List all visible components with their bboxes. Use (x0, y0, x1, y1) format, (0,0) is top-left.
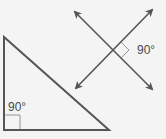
diagram-svg: 90° 90° (0, 0, 166, 139)
angle-label-triangle: 90° (8, 100, 26, 114)
right-triangle: 90° (4, 37, 109, 130)
right-angle-square (5, 115, 20, 129)
line-b-arrow (76, 50, 113, 88)
line-a-arrow (75, 12, 113, 50)
geometry-diagram: 90° 90° (0, 0, 166, 139)
perpendicular-lines: 90° (75, 10, 155, 89)
right-angle-marker (121, 42, 129, 58)
angle-label-lines: 90° (137, 43, 155, 57)
